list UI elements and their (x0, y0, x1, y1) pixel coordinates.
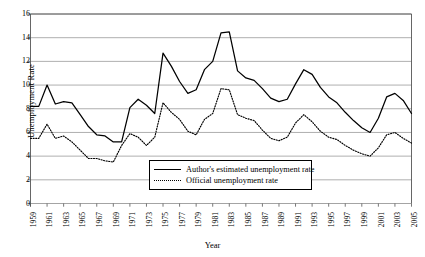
dotted-line-swatch-icon (154, 176, 181, 185)
chart-legend: Author's estimated unemployment rate Off… (149, 160, 312, 190)
legend-label-official-rate: Official unemployment rate (186, 176, 278, 185)
x-axis-tick-labels: 1959196119631965196719691971197319751977… (0, 0, 425, 257)
y-axis-title: Unemployment Rate (26, 16, 36, 186)
legend-item-authors-estimate: Author's estimated unemployment rate (154, 164, 307, 175)
x-axis-title: Year (0, 240, 425, 250)
unemployment-rate-chart: 0246810121416 19591961196319651967196919… (0, 0, 425, 257)
legend-label-authors-estimate: Author's estimated unemployment rate (186, 165, 314, 174)
solid-line-swatch-icon (154, 165, 181, 174)
legend-item-official-rate: Official unemployment rate (154, 175, 307, 186)
